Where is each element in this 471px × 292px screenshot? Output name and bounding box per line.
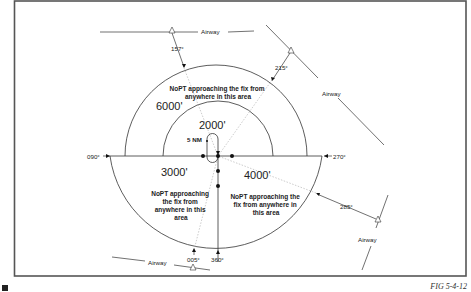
figure-caption: FIG 5-4-12	[429, 282, 467, 291]
airway-right-label: Airway	[322, 90, 341, 97]
airway-top-right-segment	[228, 31, 254, 32]
course-360-arrow-icon	[216, 250, 220, 254]
fix-dot-right	[230, 154, 234, 158]
lower-right-area-note: NoPT approaching the fix from anywhere i…	[230, 193, 301, 216]
fix-dot-below-1	[216, 169, 220, 173]
airway-bottom-left-segment	[112, 257, 145, 261]
bearing-360-label: 360°	[211, 256, 224, 263]
lower-left-area-note: NoPT approaching the fix from anywhere i…	[151, 190, 211, 221]
fix-dot-center	[216, 154, 220, 158]
holding-leg-label: 5 NM	[187, 136, 202, 143]
altitude-4000: 4000'	[244, 169, 271, 181]
airway-bottom-label: Airway	[148, 259, 167, 266]
airway-lower-right-lower-segment	[362, 246, 371, 270]
airway-lower-right-label: Airway	[358, 236, 377, 243]
course-270-arrow-icon	[324, 154, 328, 158]
bearing-215-label: 215°	[275, 64, 288, 71]
course-157-arrow-icon	[182, 64, 186, 68]
procedure-turn-diagram: 6000' 2000' 3000' 4000' 5 NM NoPT approa…	[0, 0, 471, 292]
airway-top-label: Airway	[201, 28, 220, 35]
altitude-3000: 3000'	[161, 166, 188, 178]
holding-leg-marker	[206, 140, 208, 142]
outer-upper-arc	[125, 65, 307, 156]
figure-frame	[15, 1, 467, 276]
holding-pattern	[207, 134, 218, 163]
bearing-157-label: 157°	[171, 45, 184, 52]
fix-dot-left	[201, 154, 205, 158]
course-090-arrow-icon	[106, 154, 110, 158]
course-005-arrow-icon	[192, 248, 196, 252]
altitude-6000: 6000'	[156, 100, 183, 112]
airway-top-fix-icon	[169, 27, 175, 33]
airway-lower-right-upper-segment	[376, 195, 388, 228]
bearing-270-label: 270°	[333, 153, 346, 160]
course-285-arrow-icon	[316, 193, 320, 196]
altitude-2000: 2000'	[199, 119, 226, 131]
fix-dot-below-2	[216, 184, 220, 188]
upper-area-note: NoPT approaching the fix from anywhere i…	[170, 85, 267, 101]
bearing-285-label: 285°	[340, 203, 353, 210]
margin-marker	[2, 285, 8, 291]
bearing-090-label: 090°	[87, 153, 100, 160]
bearing-005-label: 005°	[187, 256, 200, 263]
airway-right-lower-segment	[338, 98, 384, 145]
